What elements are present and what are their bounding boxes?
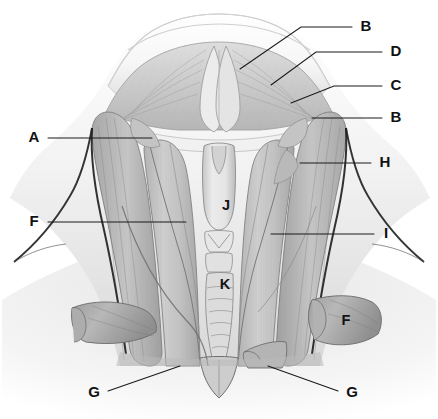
label-a: A bbox=[29, 128, 40, 145]
label-g-right: G bbox=[346, 383, 358, 400]
label-k: K bbox=[220, 276, 231, 292]
label-b-right: B bbox=[391, 108, 402, 125]
label-i: I bbox=[384, 224, 388, 241]
outline-right-shoulder bbox=[372, 244, 424, 262]
anatomy-figure: BDCBHIAFGGFJK bbox=[0, 0, 438, 419]
label-b-top: B bbox=[361, 17, 372, 34]
label-h: H bbox=[380, 153, 391, 170]
cricothyroid-membrane bbox=[205, 231, 234, 253]
outline-left-shoulder bbox=[14, 244, 66, 262]
label-f-figure: F bbox=[342, 312, 351, 328]
label-c: C bbox=[391, 76, 402, 93]
label-f-left: F bbox=[29, 212, 38, 229]
label-j: J bbox=[222, 197, 230, 213]
anatomy-illustration: BDCBHIAFGGFJK bbox=[0, 0, 438, 419]
label-g-left: G bbox=[88, 383, 100, 400]
label-d: D bbox=[391, 42, 402, 59]
cricoid-cartilage bbox=[206, 253, 233, 273]
